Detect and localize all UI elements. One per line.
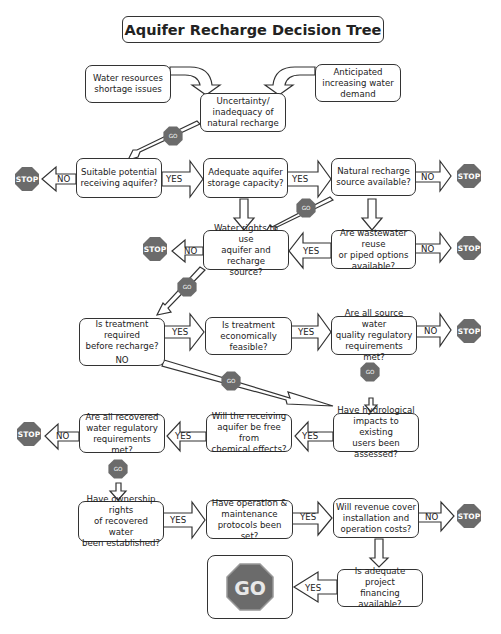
node-text: water regulatory: [86, 423, 158, 434]
node-text: operation costs?: [341, 524, 412, 535]
node-text: Are all recovered: [85, 412, 158, 423]
stop-sign: STOP: [457, 164, 481, 188]
no-label: NO: [56, 431, 69, 441]
node-text: aquifer be free from: [209, 422, 289, 444]
svg-text:STOP: STOP: [458, 244, 481, 253]
node-text: of recovered water: [81, 516, 161, 538]
svg-text:STOP: STOP: [18, 430, 41, 439]
go-sign-small: GO: [177, 277, 196, 296]
yes-label: YES: [292, 174, 308, 184]
no-label: NO: [425, 512, 438, 522]
node-text: been established?: [82, 538, 160, 549]
node-text: Have ownership rights: [81, 494, 161, 516]
node-text: source?: [229, 267, 262, 278]
node-text: economically: [220, 331, 277, 342]
yes-label: YES: [298, 327, 314, 337]
node-text: inadequacy of: [213, 107, 274, 118]
yes-label: YES: [302, 431, 318, 441]
node-suitable-aquifer: Suitable potentialreceiving aquifer?: [76, 158, 162, 198]
node-text: Are wastewater reuse: [334, 228, 413, 250]
yes-label: YES: [166, 174, 182, 184]
node-text: users been assessed?: [336, 438, 416, 460]
node-text: Have operation &: [212, 498, 288, 509]
node-source-quality: Are all source waterquality regulatoryre…: [331, 316, 417, 355]
node-text: requirements met?: [334, 341, 414, 363]
node-text: Is adequate project: [340, 566, 420, 588]
node-text: Is treatment required: [82, 319, 162, 341]
node-text: requirements met?: [82, 434, 162, 456]
node-text: Anticipated increasing water demand: [316, 67, 400, 100]
stop-sign: STOP: [457, 504, 481, 528]
node-text: source available?: [336, 177, 411, 188]
node-text: Water resources shortage issues: [93, 73, 163, 95]
yes-label: YES: [175, 431, 191, 441]
node-text: Are all source water: [334, 308, 414, 330]
node-text: protocols been set?: [209, 520, 290, 542]
node-text: chemical effects?: [212, 444, 287, 455]
node-increasing-demand: Anticipated increasing water demand: [315, 64, 401, 102]
node-text: storage capacity?: [207, 178, 283, 189]
no-label: NO: [421, 172, 434, 182]
go-sign-small: GO: [360, 362, 379, 381]
decision-tree-diagram: STOP STOP STOP STOP STOP STOP STOP GO GO…: [0, 0, 501, 634]
go-sign-small: GO: [108, 459, 127, 478]
go-sign-large: GO: [207, 555, 293, 619]
node-text: Is treatment: [222, 320, 275, 331]
node-uncertainty: Uncertainty/ inadequacy of natural recha…: [200, 93, 286, 132]
node-chemical-effects: Will the receivingaquifer be free fromch…: [206, 414, 292, 452]
node-wastewater-reuse: Are wastewater reuseor piped optionsavai…: [331, 230, 416, 269]
stop-sign: STOP: [15, 167, 39, 191]
arrow-right-input: [265, 67, 315, 95]
node-financing: Is adequate projectfinancing available?: [337, 569, 423, 607]
node-text: available?: [352, 261, 395, 272]
diagram-title: Aquifer Recharge Decision Tree: [122, 16, 384, 43]
node-water-rights: Water rights to useaquifer and recharges…: [203, 230, 289, 270]
node-text: financing available?: [340, 588, 420, 610]
no-label: NO: [184, 246, 197, 256]
go-sign-small: GO: [221, 371, 240, 390]
svg-text:STOP: STOP: [458, 172, 481, 181]
node-text: Have hydrological: [337, 405, 414, 416]
yes-label: YES: [303, 246, 319, 256]
yes-label: YES: [300, 512, 316, 522]
node-text: quality regulatory: [336, 330, 413, 341]
yes-label: YES: [172, 327, 188, 337]
yes-label: YES: [170, 515, 186, 525]
arrow-down-5: [370, 539, 388, 567]
svg-text:GO: GO: [234, 577, 266, 599]
svg-text:STOP: STOP: [458, 512, 481, 521]
node-text: Adequate aquifer: [208, 167, 282, 178]
node-revenue: Will revenue coverinstallation andoperat…: [333, 498, 419, 538]
svg-text:GO: GO: [114, 466, 123, 472]
node-text: Suitable potential: [81, 167, 157, 178]
node-text: aquifer and recharge: [206, 245, 286, 267]
stop-sign: STOP: [143, 237, 167, 261]
node-text: installation and: [343, 513, 409, 524]
node-treatment-feasible: Is treatmenteconomicallyfeasible?: [205, 317, 292, 355]
node-text: maintenance: [221, 509, 277, 520]
go-sign-small: GO: [163, 126, 182, 145]
node-text: impacts to existing: [336, 416, 416, 438]
svg-text:STOP: STOP: [16, 175, 39, 184]
node-ownership-rights: Have ownership rightsof recovered waterb…: [78, 501, 164, 542]
svg-text:GO: GO: [183, 284, 192, 290]
node-natural-source: Natural rechargesource available?: [331, 158, 416, 196]
no-label: NO: [57, 174, 70, 184]
go-sign-small: GO: [296, 198, 315, 217]
svg-text:GO: GO: [302, 205, 311, 211]
svg-text:GO: GO: [227, 378, 236, 384]
node-text: feasible?: [229, 342, 267, 353]
arrow-go-4: [162, 360, 333, 406]
yes-label: YES: [305, 583, 321, 593]
no-label: NO: [115, 355, 128, 366]
no-label: NO: [424, 326, 437, 336]
svg-text:STOP: STOP: [458, 327, 481, 336]
node-om-protocols: Have operation &maintenanceprotocols bee…: [206, 500, 293, 539]
stop-sign: STOP: [457, 236, 481, 260]
stop-sign: STOP: [457, 319, 481, 343]
svg-text:STOP: STOP: [144, 245, 167, 254]
node-treatment-required: Is treatment requiredbefore recharge?NO: [79, 318, 165, 366]
node-text: Water rights to use: [206, 223, 286, 245]
node-storage-capacity: Adequate aquiferstorage capacity?: [203, 158, 288, 198]
svg-text:GO: GO: [169, 133, 178, 139]
